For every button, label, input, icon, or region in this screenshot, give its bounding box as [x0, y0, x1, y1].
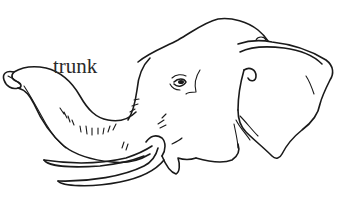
trunk-wrinkle [80, 126, 98, 135]
trunk-tip-inner [8, 76, 20, 84]
ear-wrinkle [306, 76, 314, 94]
trunk-tip [3, 71, 21, 88]
head-outline [138, 19, 268, 62]
ear-base-wrinkle [234, 124, 238, 148]
brow-line [186, 70, 200, 94]
ear-front-edge [238, 70, 244, 110]
ear-outline [238, 41, 333, 158]
cheek-wrinkle [122, 142, 128, 150]
trunk-label: trunk [53, 56, 97, 77]
ear-top-bump [256, 37, 266, 40]
ear-rim [240, 47, 322, 64]
trunk-inner-line [24, 86, 66, 148]
jaw-line [196, 144, 239, 162]
trunk-wrinkle [103, 124, 116, 134]
ear-curl [244, 68, 256, 80]
eye-pupil [178, 80, 184, 84]
cheek-wrinkle [158, 114, 166, 128]
trunk-lower-edge [18, 88, 150, 163]
elephant-illustration [0, 0, 340, 198]
mouth-detail [172, 138, 182, 144]
trunk-wrinkle [60, 108, 74, 125]
elephant-diagram: trunk [0, 0, 340, 198]
mouth [162, 156, 196, 174]
